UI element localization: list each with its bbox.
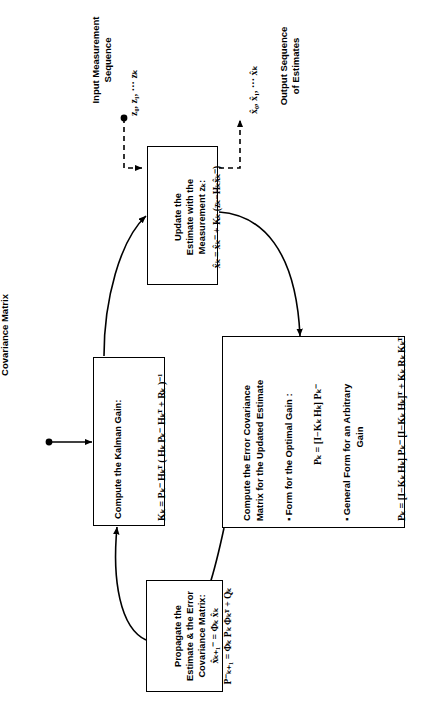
gain-heading-line-1: Compute the Kalman Gain:	[112, 359, 124, 519]
input-to-update-connector	[121, 115, 142, 168]
output-symbol-text: x̂₀, x̂₁, ··· x̂ₖ	[248, 22, 259, 114]
initialize-line-4: Covariance Matrix	[0, 240, 12, 430]
input-line-1: Input Measurement	[90, 0, 102, 120]
propagate-heading-line-2: Estimate & the Error	[184, 586, 196, 686]
output-line-2: of Estimates	[290, 10, 302, 122]
covariance-bullet-1-text: Form for the Optimal Gain :	[283, 393, 294, 515]
propagate-to-gain-connector	[116, 527, 146, 640]
propagate-heading-line-3: Covariance Matrix:	[196, 586, 208, 686]
update-heading-line-1: Update the	[172, 154, 184, 280]
update-to-output-connector	[219, 120, 240, 168]
input-symbol-text: z₀, z₁, ··· zₖ	[128, 26, 139, 116]
covariance-bullet-2-text-2: Gain	[354, 353, 367, 521]
bullet-marker-icon: ▪	[284, 515, 294, 521]
covariance-heading-line-1: Compute the Error Covariance	[241, 335, 254, 521]
propagate-heading-line-1: Propagate the	[172, 586, 184, 686]
gain-equation-1: Kₖ = Pₖ⁻ Hₖᵀ ( Hₖ Pₖ⁻ Hₖᵀ + Rₖ )⁻¹	[156, 359, 167, 521]
gain-to-update-connector	[104, 216, 146, 356]
input-line-2: Sequence	[102, 0, 114, 120]
output-line-1: Output Sequence	[278, 10, 290, 122]
kalman-filter-diagram: Initialize Filter with the a priori Esti…	[0, 0, 429, 721]
covariance-heading-line-2: Matrix for the Updated Estimate	[254, 335, 267, 521]
update-to-covariance-connector	[219, 212, 300, 336]
init-to-gain-connector	[46, 439, 92, 446]
bullet-marker-icon-2: ▪	[342, 515, 352, 521]
update-heading-line-3: Measurement zₖ:	[196, 154, 208, 280]
update-heading-line-2: Estimate with the	[184, 154, 196, 280]
update-equation-1: x̂ₖ = x̂ₖ⁻ + Kₖ (zₖ−Hₖx̂ₖ⁻)	[211, 152, 222, 282]
compute-kalman-gain-block	[93, 357, 165, 526]
covariance-bullet-2-text-1: General Form for an Arbitrary	[341, 384, 352, 515]
